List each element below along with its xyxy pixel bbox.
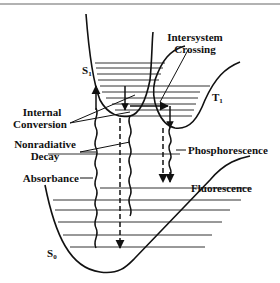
absorbance-label: Absorbance: [23, 172, 79, 184]
phosphorescence-wavy-arrow: [169, 128, 171, 175]
intersystem-leader: [160, 50, 188, 102]
internal-label-2: Conversion: [13, 118, 67, 130]
internal-label-1: Internal: [23, 106, 62, 118]
s1-label: S1: [82, 64, 92, 78]
internal-leader-2: [70, 112, 130, 123]
t1-label: T1: [212, 91, 223, 105]
intersystem-label-1: Intersystem: [167, 31, 223, 43]
phosphorescence-label: Phosphorescence: [188, 144, 268, 156]
nonradiative-decay-wavy: [129, 116, 131, 216]
jablonski-diagram: S1 T1 S0 Intersystem Crossing Internal C…: [0, 0, 280, 283]
fluorescence-label: Fluorescence: [191, 182, 252, 194]
s0-levels: [53, 200, 241, 247]
intersystem-label-2: Crossing: [174, 43, 216, 55]
nonrad-leader-1: [80, 142, 130, 152]
s1-levels: [95, 63, 210, 116]
nonrad-label-1: Nonradiative: [14, 138, 76, 150]
nonrad-label-2: Decay: [31, 150, 60, 162]
absorbance-wavy-arrow: [95, 108, 97, 248]
s0-label: S0: [47, 247, 57, 261]
